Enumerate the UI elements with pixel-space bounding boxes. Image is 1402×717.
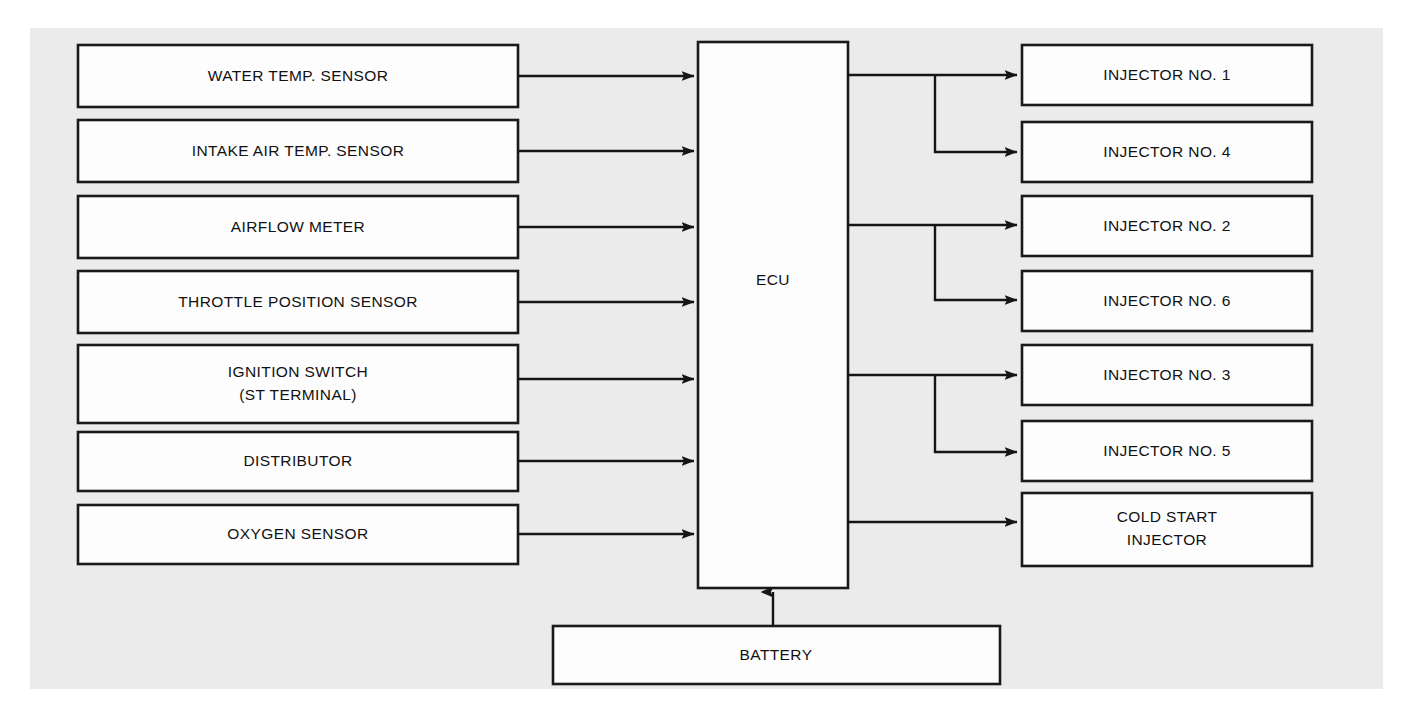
output-box: [1022, 493, 1312, 566]
output-node-cold-start-injector[interactable]: COLD START INJECTOR: [1022, 493, 1312, 566]
output-label: INJECTOR NO. 2: [1103, 217, 1231, 234]
input-label: WATER TEMP. SENSOR: [208, 67, 389, 84]
power-node-battery[interactable]: BATTERY: [553, 626, 1000, 684]
input-node-ignition-switch[interactable]: IGNITION SWITCH (ST TERMINAL): [78, 345, 518, 423]
output-label: INJECTOR NO. 6: [1103, 292, 1231, 309]
input-label: AIRFLOW METER: [231, 218, 365, 235]
battery-label: BATTERY: [740, 646, 813, 663]
input-label-line2: (ST TERMINAL): [239, 386, 356, 403]
flow-ecu-to-injector-4: [935, 75, 1017, 152]
input-node-airflow-meter[interactable]: AIRFLOW METER: [78, 196, 518, 258]
output-node-injector-no-4[interactable]: INJECTOR NO. 4: [1022, 122, 1312, 182]
output-node-injector-no-2[interactable]: INJECTOR NO. 2: [1022, 196, 1312, 256]
controller-node-ecu[interactable]: ECU: [698, 42, 848, 588]
input-label: DISTRIBUTOR: [243, 452, 352, 469]
flow-ecu-to-injector-5: [935, 375, 1017, 452]
block-diagram-root: WATER TEMP. SENSOR INTAKE AIR TEMP. SENS…: [0, 0, 1402, 717]
output-label-line2: INJECTOR: [1127, 531, 1207, 548]
ecu-label: ECU: [756, 271, 790, 288]
input-label: THROTTLE POSITION SENSOR: [178, 293, 418, 310]
diagram-canvas: WATER TEMP. SENSOR INTAKE AIR TEMP. SENS…: [0, 0, 1402, 717]
input-label-line1: IGNITION SWITCH: [228, 363, 368, 380]
output-node-injector-no-1[interactable]: INJECTOR NO. 1: [1022, 45, 1312, 105]
input-box: [78, 345, 518, 423]
output-node-injector-no-5[interactable]: INJECTOR NO. 5: [1022, 421, 1312, 481]
output-label: INJECTOR NO. 5: [1103, 442, 1231, 459]
output-label: INJECTOR NO. 1: [1103, 66, 1231, 83]
input-node-water-temp-sensor[interactable]: WATER TEMP. SENSOR: [78, 45, 518, 107]
output-node-injector-no-6[interactable]: INJECTOR NO. 6: [1022, 271, 1312, 331]
output-label-line1: COLD START: [1117, 508, 1218, 525]
input-node-distributor[interactable]: DISTRIBUTOR: [78, 432, 518, 491]
input-node-intake-air-temp-sensor[interactable]: INTAKE AIR TEMP. SENSOR: [78, 120, 518, 182]
output-label: INJECTOR NO. 3: [1103, 366, 1231, 383]
output-node-injector-no-3[interactable]: INJECTOR NO. 3: [1022, 345, 1312, 405]
input-node-throttle-position-sensor[interactable]: THROTTLE POSITION SENSOR: [78, 271, 518, 333]
ecu-box: [698, 42, 848, 588]
input-node-oxygen-sensor[interactable]: OXYGEN SENSOR: [78, 505, 518, 564]
output-label: INJECTOR NO. 4: [1103, 143, 1231, 160]
input-label: INTAKE AIR TEMP. SENSOR: [192, 142, 404, 159]
input-label: OXYGEN SENSOR: [227, 525, 368, 542]
flow-ecu-to-injector-6: [935, 225, 1017, 300]
